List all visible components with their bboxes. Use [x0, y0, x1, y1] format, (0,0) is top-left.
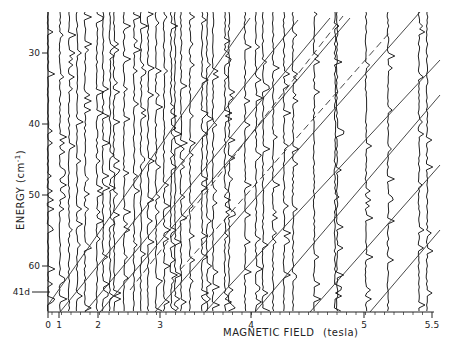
spectrum-trace [102, 12, 110, 311]
fan-line-dashed [130, 16, 343, 290]
fan-line [310, 165, 440, 312]
y-tick-label: 60 [29, 261, 41, 271]
spectrum-trace [426, 12, 433, 311]
spectrum-trace [113, 12, 121, 311]
spectrum-trace [262, 12, 270, 311]
x-axis-title: MAGNETIC FIELD [223, 327, 314, 338]
spectrum-trace [283, 12, 291, 311]
annotation-41d: 41d [13, 287, 30, 297]
spectrum-trace [155, 12, 163, 311]
spectrum-trace [123, 12, 131, 311]
spectrum-trace [255, 12, 263, 311]
spectrum-trace [212, 12, 219, 311]
fan-line [155, 12, 420, 312]
spectrum-trace [59, 12, 67, 311]
y-tick-label: 30 [29, 48, 41, 58]
landau-fan-chart: 0123455.5 3040506041d MAGNETIC FIELD (te… [0, 0, 452, 362]
fan-line [255, 95, 440, 312]
spectrum-trace [76, 12, 83, 311]
y-axis-title: ENERGY (cm-1) [14, 150, 26, 230]
spectrum-trace [147, 12, 154, 311]
x-tick-label: 5 [361, 320, 367, 330]
spectrum-trace [334, 12, 342, 311]
fan-lines [48, 12, 440, 312]
x-tick-label: 5.5 [425, 320, 439, 330]
spectrum-trace [365, 12, 373, 311]
fan-line [370, 230, 440, 312]
spectrum-trace [418, 12, 425, 311]
spectrum-trace [140, 12, 148, 311]
spectrum-trace [189, 12, 195, 311]
spectrum-trace [387, 12, 395, 311]
spectrum-trace [133, 12, 141, 311]
x-tick-label: 3 [157, 320, 163, 330]
x-axis-unit: (tesla) [323, 327, 359, 338]
spectra-traces [47, 12, 433, 311]
spectrum-trace [228, 12, 235, 311]
y-tick-label: 50 [29, 190, 41, 200]
spectrum-trace [336, 12, 344, 311]
x-tick-label: 0 [45, 320, 51, 330]
spectrum-trace [84, 12, 92, 311]
x-tick-label: 1 [56, 320, 62, 330]
x-tick-label: 2 [95, 320, 101, 330]
spectrum-trace [163, 12, 170, 311]
spectrum-trace [68, 12, 76, 311]
fan-line [205, 60, 440, 312]
y-tick-label: 40 [29, 119, 41, 129]
